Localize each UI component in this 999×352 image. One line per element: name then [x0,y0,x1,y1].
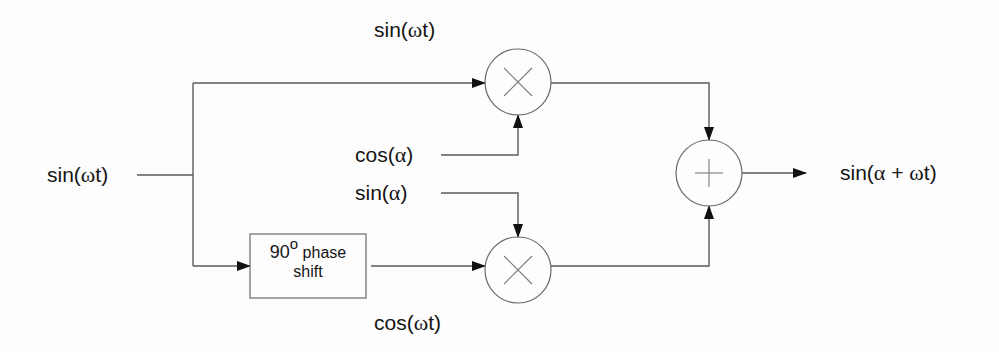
cos-alpha-label: cos(α) [355,144,413,166]
cos-alpha-wire [441,115,518,155]
adder [676,140,742,206]
bottom-to-adder-wire [551,206,709,266]
phase-shift-degrees: 90 [270,242,290,262]
phase-shift-word: phase [303,244,347,261]
input-label: sin(ωt) [47,164,108,186]
input-label-suffix: t) [95,163,108,186]
sin-alpha-prefix: sin( [355,181,389,204]
alpha-symbol: α [389,180,401,205]
omega-symbol: ω [909,160,923,185]
output-prefix: sin( [840,161,874,184]
cos-alpha-suffix: ) [406,143,413,166]
alpha-symbol: α [874,160,886,185]
top-to-adder-wire [551,83,709,140]
cos-alpha-prefix: cos( [355,143,395,166]
alpha-symbol: α [395,142,407,167]
phase-shifter-diagram: sin(ωt) sin(ωt) cos(α) sin(α) cos(ωt) 90… [0,0,999,352]
omega-symbol: ω [414,310,428,335]
bottom-path-suffix: t) [428,311,441,334]
degree-symbol: o [290,235,298,252]
phase-shift-box-label: 90o phase shift [250,243,366,281]
multiplier-top [485,49,551,115]
output-plus: + [885,161,909,184]
output-label: sin(α + ωt) [840,162,937,184]
omega-symbol: ω [81,162,95,187]
bottom-path-prefix: cos( [374,311,414,334]
omega-symbol: ω [408,17,422,42]
phase-shift-line2: shift [250,264,366,281]
sin-alpha-wire [441,193,518,237]
sin-alpha-suffix: ) [400,181,407,204]
top-path-suffix: t) [422,18,435,41]
multiplier-bottom [485,237,551,303]
sin-alpha-label: sin(α) [355,182,407,204]
phase-shift-line1: 90o phase [250,243,366,262]
bottom-path-label: cos(ωt) [374,312,441,334]
top-path-label: sin(ωt) [374,19,435,41]
top-path-prefix: sin( [374,18,408,41]
input-label-prefix: sin( [47,163,81,186]
output-suffix: t) [924,161,937,184]
